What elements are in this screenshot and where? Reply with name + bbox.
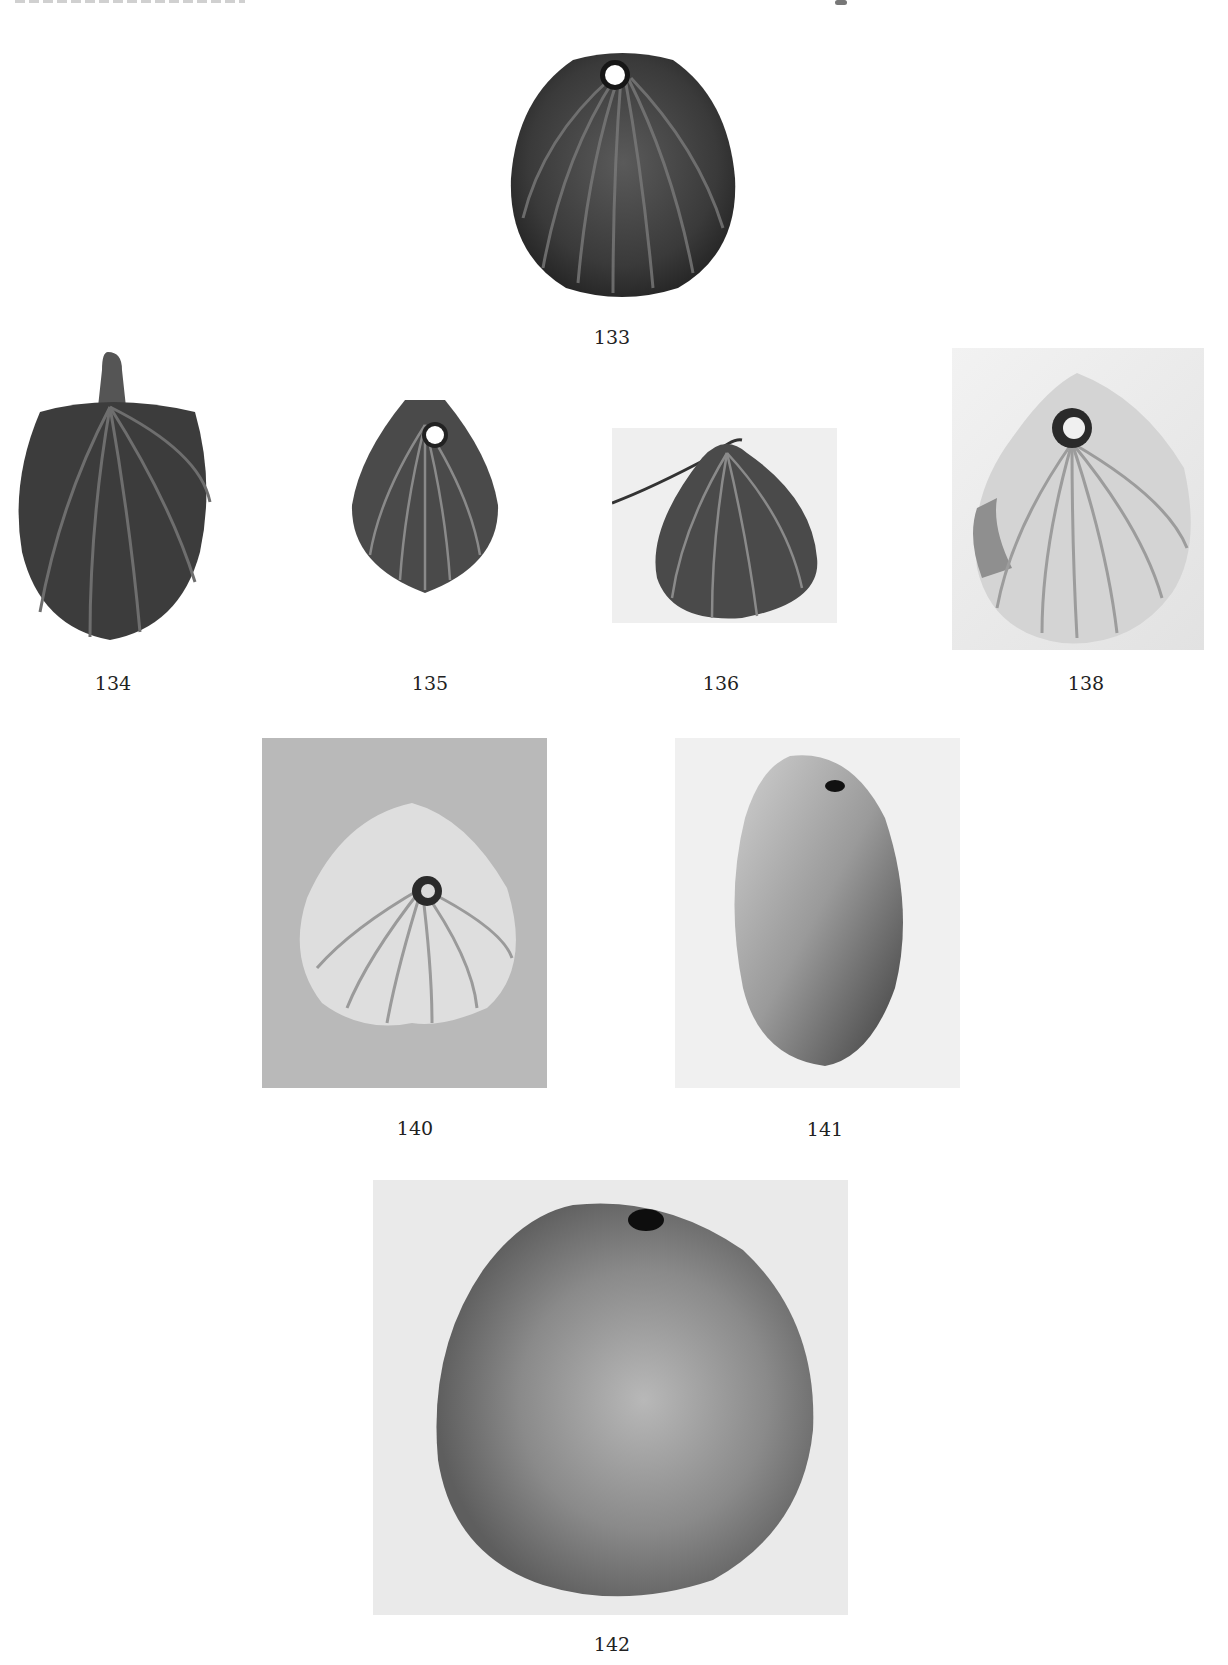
scallop-shell-pale-grey-bg-icon	[262, 738, 547, 1088]
figure-number: 138	[1046, 672, 1126, 694]
figure-number: 141	[785, 1118, 865, 1140]
round-shell-worn-icon	[373, 1180, 848, 1615]
photo-shell-141	[675, 738, 960, 1088]
photo-shell-133	[503, 38, 741, 300]
figure-number: 136	[681, 672, 761, 694]
photo-shell-140	[262, 738, 547, 1088]
figure-number: 133	[572, 326, 652, 348]
photo-shell-142	[373, 1180, 848, 1615]
photo-shell-138	[952, 348, 1204, 650]
running-header-text-fragment	[15, 0, 245, 3]
figure-number: 142	[572, 1633, 652, 1655]
cropped-running-header	[0, 0, 1228, 6]
cowrie-shell-icon	[675, 738, 960, 1088]
scallop-pendant-small-icon	[350, 395, 500, 595]
figure-number: 134	[73, 672, 153, 694]
photo-shell-135	[350, 395, 500, 595]
scallop-pendant-wire-icon	[612, 428, 837, 623]
photo-shell-136	[612, 428, 837, 623]
scallop-shell-pale-icon	[952, 348, 1204, 650]
scallop-pendant-loop-icon	[10, 352, 215, 642]
figure-number: 135	[390, 672, 470, 694]
scallop-pendant-dark-icon	[503, 38, 741, 300]
figure-number: 140	[375, 1117, 455, 1139]
running-header-mark	[835, 0, 847, 5]
photo-shell-134	[10, 352, 215, 642]
